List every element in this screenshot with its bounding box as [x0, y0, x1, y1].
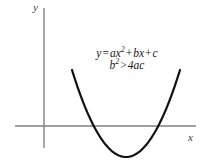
equation-line-discriminant: b2>4ac — [72, 59, 182, 71]
equation-line-standard-form: y=ax2+bx+c — [72, 47, 182, 59]
plot-canvas — [0, 0, 206, 168]
discriminant-relation-sign: > — [119, 59, 128, 71]
equation-plus-two: + — [144, 47, 153, 59]
equation-plus-one: + — [125, 47, 134, 59]
parabola-curve — [72, 70, 180, 157]
x-axis-label: x — [188, 132, 193, 143]
equation-linear-term: bx — [133, 47, 144, 59]
y-axis-label: y — [33, 2, 38, 13]
equation-equals-sign: = — [101, 47, 110, 59]
discriminant-rhs: 4ac — [128, 59, 145, 71]
equation-annotation: y=ax2+bx+c b2>4ac — [72, 47, 182, 72]
equation-constant-term: c — [153, 47, 158, 59]
parabola-figure: y x y=ax2+bx+c b2>4ac — [0, 0, 206, 168]
